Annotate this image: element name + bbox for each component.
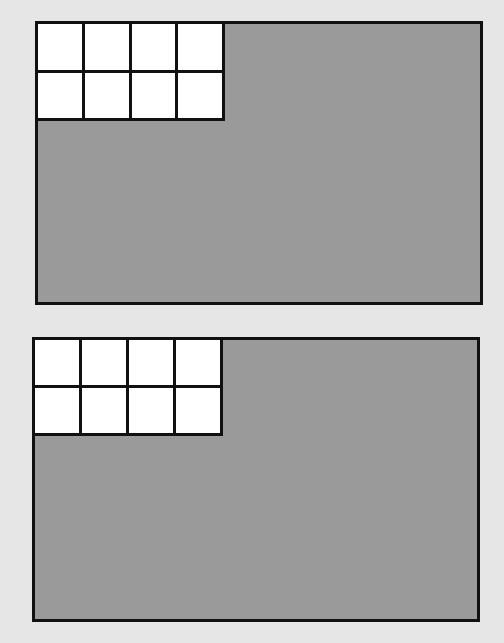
grid-cell [129,340,173,385]
top-white-grid [35,21,225,121]
bottom-rectangle [32,337,480,622]
grid-cell [38,73,82,119]
top-rectangle [35,21,483,305]
grid-cell [129,388,173,433]
grid-cell [35,388,79,433]
bottom-white-grid [32,337,223,436]
grid-cell [82,340,126,385]
grid-cell [85,24,129,70]
grid-cell [35,340,79,385]
grid-cell [82,388,126,433]
grid-cell [38,24,82,70]
grid-cell [176,340,220,385]
grid-cell [178,24,222,70]
grid-cell [132,73,176,119]
grid-cell [85,73,129,119]
grid-cell [178,73,222,119]
grid-cell [176,388,220,433]
grid-cell [132,24,176,70]
